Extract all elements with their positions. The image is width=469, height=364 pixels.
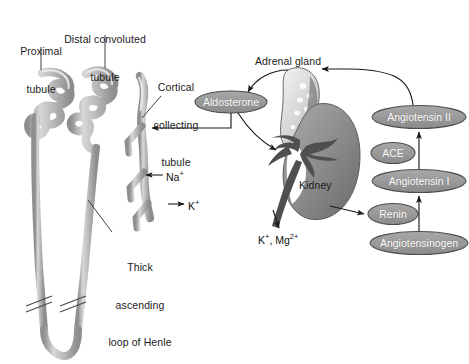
label-potassium-magnesium-ions: K+, Mg2+ (258, 232, 298, 246)
label-potassium-ion: K+ (188, 198, 199, 212)
oval-label-aldosterone[interactable]: Aldosterone (195, 96, 267, 108)
figure-canvas: Proximal tubule Distal convoluted tubule… (0, 0, 469, 364)
label-adrenal-gland: Adrenal gland (255, 55, 321, 68)
oval-label-ace[interactable]: ACE (371, 147, 415, 159)
oval-label-renin[interactable]: Renin (368, 208, 418, 220)
arrow-angiotensin-ii-to-adrenal-gland (322, 69, 413, 105)
label-cortical-line2: collecting (140, 119, 212, 132)
label-distal-tubule-line1: Distal convoluted (42, 33, 168, 46)
potassium-symbol: K (188, 200, 195, 212)
label-thick-ascending-loop-of-henle: Thick ascending loop of Henle (92, 236, 188, 364)
oval-label-angiotensin-ii[interactable]: Angiotensin II (372, 111, 466, 123)
label-cortical-line3: tubule (140, 156, 212, 169)
sodium-charge: + (179, 169, 183, 178)
label-kidney: Kidney (299, 179, 332, 192)
label-henle-line3: loop of Henle (92, 336, 188, 349)
loop-of-henle-shape (44, 330, 78, 356)
label-henle-line1: Thick (92, 261, 188, 274)
arrow-aldosterone-to-kidney (238, 113, 276, 150)
label-cortical-line1: Cortical (140, 81, 212, 94)
descending-limb-shape (35, 117, 44, 330)
sodium-symbol: Na (166, 171, 179, 183)
potassium-charge: + (195, 198, 199, 207)
oval-label-angiotensinogen[interactable]: Angiotensinogen (370, 237, 468, 249)
oval-label-angiotensin-i[interactable]: Angiotensin I (372, 175, 466, 187)
label-henle-line2: ascending (92, 299, 188, 312)
label-sodium-ion: Na+ (166, 169, 184, 183)
arrow-adrenal-gland-to-aldosterone (248, 70, 288, 92)
